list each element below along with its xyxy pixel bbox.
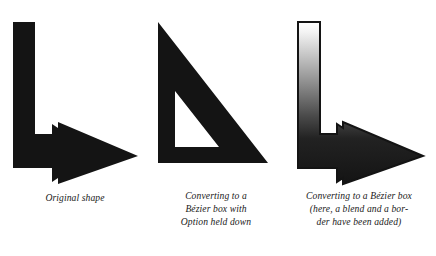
figure-panel-bezier-box-blend-border: Converting to a Bézier box (here, a blen…: [282, 0, 436, 256]
caption-line: der have been added): [282, 215, 436, 228]
figure-caption-original-shape: Original shape: [0, 191, 150, 204]
artwork-right-triangle-outline: [150, 16, 282, 176]
caption-line: (here, a blend and a bor-: [282, 202, 436, 215]
figure-caption-bezier-box-option: Converting to a Bézier box with Option h…: [150, 189, 282, 229]
caption-line: Option held down: [150, 215, 282, 228]
l-shaped-arrow-gradient-filled-icon: [298, 22, 423, 184]
figure-panel-original-shape: Original shape: [0, 0, 150, 256]
caption-line: Bézier box with: [150, 202, 282, 215]
caption-line: Converting to a Bézier box: [282, 189, 436, 202]
artwork-l-shaped-arrow-gradient: [282, 16, 436, 176]
right-triangle-outline-black-icon: [158, 22, 268, 163]
artwork-l-shaped-arrow-solid: [0, 16, 150, 176]
figure-board: Original shape Converting to a Bézier bo…: [0, 0, 436, 256]
caption-line: Original shape: [0, 191, 150, 204]
l-shaped-arrow-solid-black-icon: [13, 22, 138, 184]
caption-line: Converting to a: [150, 189, 282, 202]
figure-panel-bezier-box-option: Converting to a Bézier box with Option h…: [150, 0, 282, 256]
figure-caption-bezier-box-blend-border: Converting to a Bézier box (here, a blen…: [282, 189, 436, 229]
